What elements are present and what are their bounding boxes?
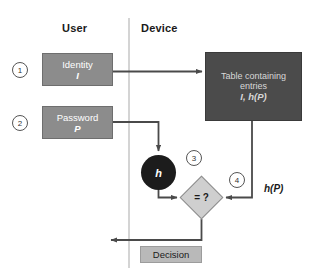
node-table[interactable]: Table containing entries I, h(P) — [205, 52, 302, 121]
hash-to-compare-arrow — [159, 190, 178, 198]
edge-label-hash-of-password: h(P) — [264, 183, 283, 194]
step-marker-4: 4 — [229, 172, 245, 188]
compare-to-decision-arrow — [111, 219, 202, 240]
node-hash-label: h — [155, 167, 162, 179]
node-table-line1: Table containing — [221, 71, 286, 82]
column-header-device: Device — [141, 22, 178, 34]
step-marker-2: 2 — [12, 115, 28, 131]
node-identity[interactable]: Identity I — [42, 53, 113, 86]
node-password-label: Password — [57, 112, 99, 123]
column-header-user: User — [62, 22, 87, 34]
step-marker-3: 3 — [186, 150, 202, 166]
node-table-entries: I, h(P) — [240, 92, 266, 103]
node-hash-function[interactable]: h — [141, 155, 176, 190]
node-compare-decision[interactable]: = ? — [180, 176, 223, 219]
node-decision-output[interactable]: Decision — [140, 246, 202, 263]
node-password[interactable]: Password P — [42, 106, 113, 139]
node-password-variable: P — [74, 123, 80, 134]
node-decision-label: Decision — [153, 249, 189, 260]
node-identity-variable: I — [76, 70, 79, 81]
node-identity-label: Identity — [62, 59, 93, 70]
node-compare-label: = ? — [180, 176, 223, 219]
step-marker-1: 1 — [12, 62, 28, 78]
password-to-hash-arrow — [113, 122, 159, 151]
diagram-canvas: User Device Identity I Password P Table … — [0, 0, 314, 277]
